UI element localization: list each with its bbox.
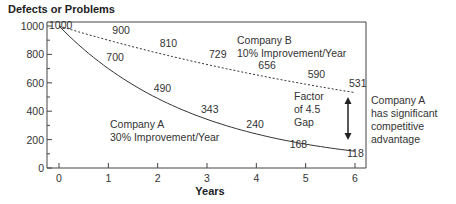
x-tick-label: 3 [204,172,210,184]
x-tick-label: 0 [56,172,62,184]
company-b-annotation: Company B 10% Improvement/Year [237,34,347,59]
company-a-annotation: Company A 30% Improvement/Year [110,118,220,143]
data-label: 240 [246,118,264,130]
data-label: 729 [209,48,227,60]
advantage-line-2: has significant [371,107,438,119]
data-label: 1000 [49,19,73,31]
data-label: 531 [349,77,367,89]
x-tick-label: 2 [155,172,161,184]
company-a-name: Company A [110,118,164,130]
y-tick-label: 800 [26,48,44,60]
data-label: 656 [258,59,276,71]
company-b-name: Company B [237,34,292,46]
gap-annotation: Factor of 4.5 Gap [294,90,327,128]
chart-title: Defects or Problems [8,3,115,15]
y-tick-label: 0 [38,162,44,174]
y-tick-label: 1000 [21,20,45,32]
y-tick-label: 400 [26,105,44,117]
gap-line-2: of 4.5 [294,103,320,115]
x-tick-label: 5 [303,172,309,184]
y-tick-label: 200 [26,134,44,146]
gap-line-1: Factor [294,90,324,102]
x-tick-label: 4 [253,172,259,184]
x-ticks: 0123456 [56,163,358,184]
x-tick-label: 1 [105,172,111,184]
gap-double-arrow-icon [345,97,352,140]
data-label: 343 [201,103,219,115]
advantage-line-1: Company A [371,94,425,106]
y-tick-label: 600 [26,77,44,89]
advantage-line-4: advantage [371,133,420,145]
x-axis-title: Years [195,185,224,197]
data-label: 490 [154,82,172,94]
company-a-rate: 30% Improvement/Year [110,131,220,143]
data-label: 810 [160,37,178,49]
series-line-company-b [59,26,355,93]
chart: Defects or Problems 02004006008001000 01… [0,0,456,204]
data-label: 700 [106,51,124,63]
data-label: 590 [308,68,326,80]
advantage-line-3: competitive [371,120,424,132]
data-label: 168 [290,138,308,150]
data-label: 900 [112,24,130,36]
data-label: 118 [347,147,364,159]
x-tick-label: 6 [352,172,358,184]
gap-line-3: Gap [294,116,314,128]
company-b-rate: 10% Improvement/Year [237,47,347,59]
advantage-annotation: Company A has significant competitive ad… [371,94,440,145]
